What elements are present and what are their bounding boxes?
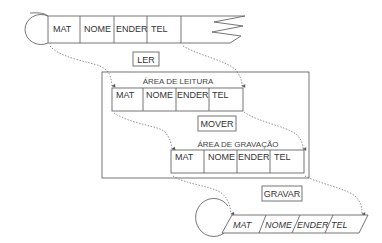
write-field-nome: NOME <box>208 152 235 162</box>
read-area-title: ÁREA DE LEITURA <box>143 77 214 86</box>
input-field-tel: TEL <box>151 24 168 34</box>
output-field-mat: MAT <box>233 220 253 230</box>
read-field-tel: TEL <box>212 90 229 100</box>
flow-arrow-move-left <box>114 113 172 149</box>
ler-operation: LER <box>133 52 159 66</box>
mover-operation: MOVER <box>198 116 236 131</box>
write-area: ÁREA DE GRAVAÇÃO MAT NOME ENDER TEL <box>171 140 304 173</box>
file-processing-diagram: MAT NOME ENDER TEL LER ÁREA DE LEITURA M… <box>0 0 382 243</box>
gravar-label: GRAVAR <box>264 189 301 199</box>
write-field-mat: MAT <box>175 152 194 162</box>
input-field-mat: MAT <box>53 24 72 34</box>
read-area: ÁREA DE LEITURA MAT NOME ENDER TEL <box>112 77 243 111</box>
write-field-tel: TEL <box>274 152 291 162</box>
output-tape: MAT NOME ENDER TEL <box>196 198 368 236</box>
output-field-nome: NOME <box>265 220 293 230</box>
input-field-ender: ENDER <box>116 24 148 34</box>
output-field-tel: TEL <box>331 220 348 230</box>
input-field-nome: NOME <box>84 24 111 34</box>
read-field-nome: NOME <box>146 90 173 100</box>
input-tape: MAT NOME ENDER TEL <box>25 13 245 45</box>
flow-arrow-write-right <box>305 176 362 214</box>
read-field-ender: ENDER <box>177 90 209 100</box>
write-area-title: ÁREA DE GRAVAÇÃO <box>197 140 278 149</box>
input-reel-icon <box>25 15 48 45</box>
output-field-ender: ENDER <box>297 220 329 230</box>
flow-arrow-write-left <box>173 176 231 214</box>
flow-arrow-read-left <box>50 46 112 86</box>
gravar-operation: GRAVAR <box>262 186 302 201</box>
read-field-mat: MAT <box>116 90 135 100</box>
mover-label: MOVER <box>200 119 234 129</box>
ler-label: LER <box>137 55 155 65</box>
write-field-ender: ENDER <box>238 152 270 162</box>
